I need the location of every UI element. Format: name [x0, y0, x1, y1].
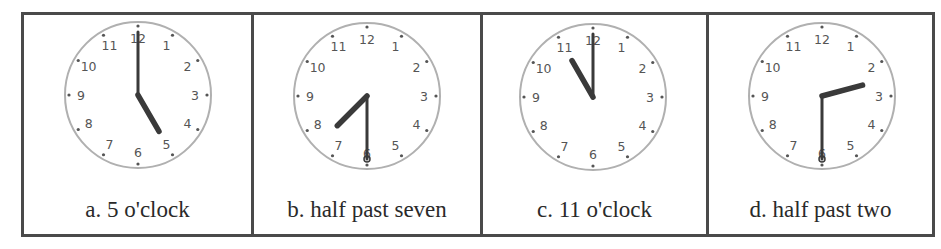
- svg-text:3: 3: [191, 88, 199, 103]
- svg-text:11: 11: [102, 38, 118, 53]
- svg-text:7: 7: [335, 138, 343, 153]
- svg-text:1: 1: [392, 39, 400, 54]
- svg-text:9: 9: [77, 88, 85, 103]
- svg-text:10: 10: [536, 61, 552, 76]
- svg-text:1: 1: [847, 39, 855, 54]
- svg-text:8: 8: [85, 116, 93, 131]
- svg-text:6: 6: [589, 147, 597, 162]
- svg-text:4: 4: [638, 118, 646, 133]
- svg-text:12: 12: [814, 32, 830, 47]
- svg-text:2: 2: [638, 61, 646, 76]
- svg-text:4: 4: [183, 116, 191, 131]
- svg-text:7: 7: [790, 138, 798, 153]
- svg-text:2: 2: [183, 59, 191, 74]
- svg-text:12: 12: [359, 32, 375, 47]
- svg-text:8: 8: [769, 117, 777, 132]
- svg-text:11: 11: [331, 39, 347, 54]
- svg-text:9: 9: [761, 89, 769, 104]
- svg-text:9: 9: [532, 90, 540, 105]
- svg-text:3: 3: [875, 89, 883, 104]
- svg-text:8: 8: [314, 117, 322, 132]
- clock-label-c: c. 11 o'clock: [483, 197, 706, 223]
- svg-text:6: 6: [134, 145, 142, 160]
- svg-text:1: 1: [618, 40, 626, 55]
- svg-text:10: 10: [765, 60, 781, 75]
- svg-text:11: 11: [557, 40, 573, 55]
- svg-text:3: 3: [646, 90, 654, 105]
- clock-exercise-frame: 121234567891011 a. 5 o'clock 12123456789…: [21, 12, 935, 237]
- clock-label-b: b. half past seven: [254, 197, 480, 223]
- svg-text:3: 3: [420, 89, 428, 104]
- svg-text:5: 5: [618, 139, 626, 154]
- clock-label-d: d. half past two: [709, 197, 932, 223]
- svg-text:5: 5: [163, 137, 171, 152]
- clock-panel-b: 121234567891011 b. half past seven: [251, 15, 480, 234]
- svg-text:7: 7: [106, 137, 114, 152]
- svg-text:7: 7: [561, 139, 569, 154]
- svg-text:2: 2: [867, 60, 875, 75]
- svg-text:5: 5: [392, 138, 400, 153]
- svg-text:10: 10: [310, 60, 326, 75]
- clock-panel-d: 121234567891011 d. half past two: [706, 15, 932, 234]
- clock-panel-a: 121234567891011 a. 5 o'clock: [24, 15, 251, 234]
- svg-text:4: 4: [867, 117, 875, 132]
- svg-text:5: 5: [847, 138, 855, 153]
- clock-label-a: a. 5 o'clock: [24, 197, 251, 223]
- svg-text:11: 11: [786, 39, 802, 54]
- svg-text:10: 10: [81, 59, 97, 74]
- svg-text:9: 9: [306, 89, 314, 104]
- svg-text:8: 8: [540, 118, 548, 133]
- svg-text:1: 1: [163, 38, 171, 53]
- svg-text:4: 4: [412, 117, 420, 132]
- svg-text:2: 2: [412, 60, 420, 75]
- clock-panel-c: 121234567891011 c. 11 o'clock: [480, 15, 706, 234]
